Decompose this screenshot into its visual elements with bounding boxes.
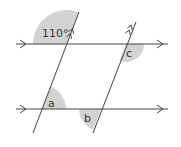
angle-b-label: b — [84, 112, 91, 125]
angle-110-label: 110° — [42, 27, 69, 40]
diagram-canvas: 110° a b c — [0, 0, 181, 147]
angle-diagram: 110° a b c — [0, 0, 181, 147]
double-arrow-right-2 — [125, 30, 130, 35]
angle-c-label: c — [126, 47, 132, 60]
right-transversal — [93, 22, 136, 133]
double-arrow-right-1 — [127, 25, 132, 30]
angle-a-label: a — [48, 97, 55, 110]
